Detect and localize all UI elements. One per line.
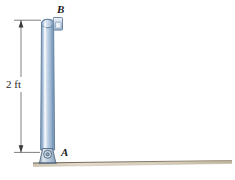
point-label-b: B (57, 4, 64, 15)
engineering-figure: B A 2 ft (0, 0, 235, 180)
arrowhead-up (19, 20, 24, 27)
dimension-label: 2 ft (6, 79, 21, 90)
arrowhead-down (19, 145, 24, 152)
figure-canvas (0, 0, 235, 180)
ground-surface (33, 161, 232, 167)
collar-block (53, 18, 62, 31)
cylindrical-rod (41, 19, 55, 150)
pin-support (38, 149, 57, 164)
point-label-a: A (61, 147, 68, 158)
